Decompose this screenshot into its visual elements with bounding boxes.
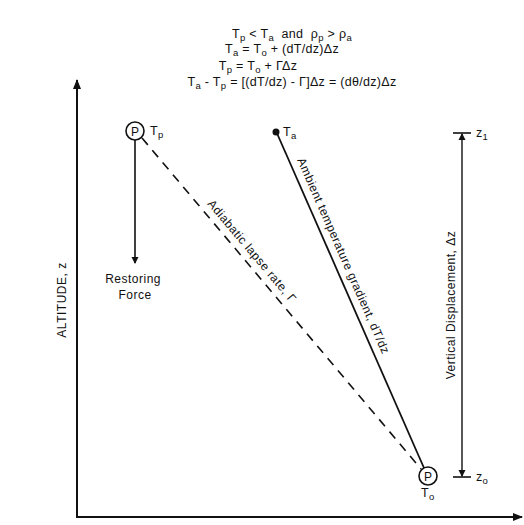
equation-line-1: Tp < Ta and ρp > ρa <box>232 27 352 43</box>
ambient-top-point: Ta <box>273 125 297 141</box>
adiabatic-lapse-label: Adiabatic lapse rate, Γ <box>205 197 300 306</box>
equations-block: Tp < Ta and ρp > ρa Ta = To + (dT/dz)Δz … <box>188 27 397 91</box>
equation-line-3: Tp = To + ΓΔz <box>219 59 297 75</box>
parcel-bottom-symbol: P <box>424 470 432 484</box>
ambient-gradient-line <box>276 131 424 468</box>
parcel-bottom-label: To <box>421 486 435 502</box>
equation-line-4: Ta - Tp = [(dT/dz) - Γ]Δz = (dθ/dz)Δz <box>188 75 397 91</box>
parcel-top-label: Tp <box>150 124 164 140</box>
z0-label: zo <box>476 470 488 486</box>
equation-line-2: Ta = To + (dT/dz)Δz <box>225 42 339 58</box>
displacement-label: Vertical Displacement, Δz <box>444 231 458 380</box>
y-axis-label: ALTITUDE, z <box>55 262 69 337</box>
restoring-force-label: Restoring Force <box>105 272 165 302</box>
adiabatic-lapse-line <box>142 138 421 469</box>
parcel-top-symbol: P <box>131 125 139 139</box>
ambient-gradient-label: Ambient temperature gradient, dT/dz <box>294 156 392 357</box>
parcel-top: P Tp <box>126 122 164 140</box>
parcel-bottom: P To <box>419 467 437 502</box>
vertical-displacement: z1 zo Vertical Displacement, Δz <box>444 126 488 486</box>
ambient-top-label: Ta <box>283 125 297 141</box>
atmospheric-stability-diagram: Tp < Ta and ρp > ρa Ta = To + (dT/dz)Δz … <box>0 0 524 525</box>
ambient-dot <box>273 129 280 136</box>
z1-label: z1 <box>476 126 488 142</box>
